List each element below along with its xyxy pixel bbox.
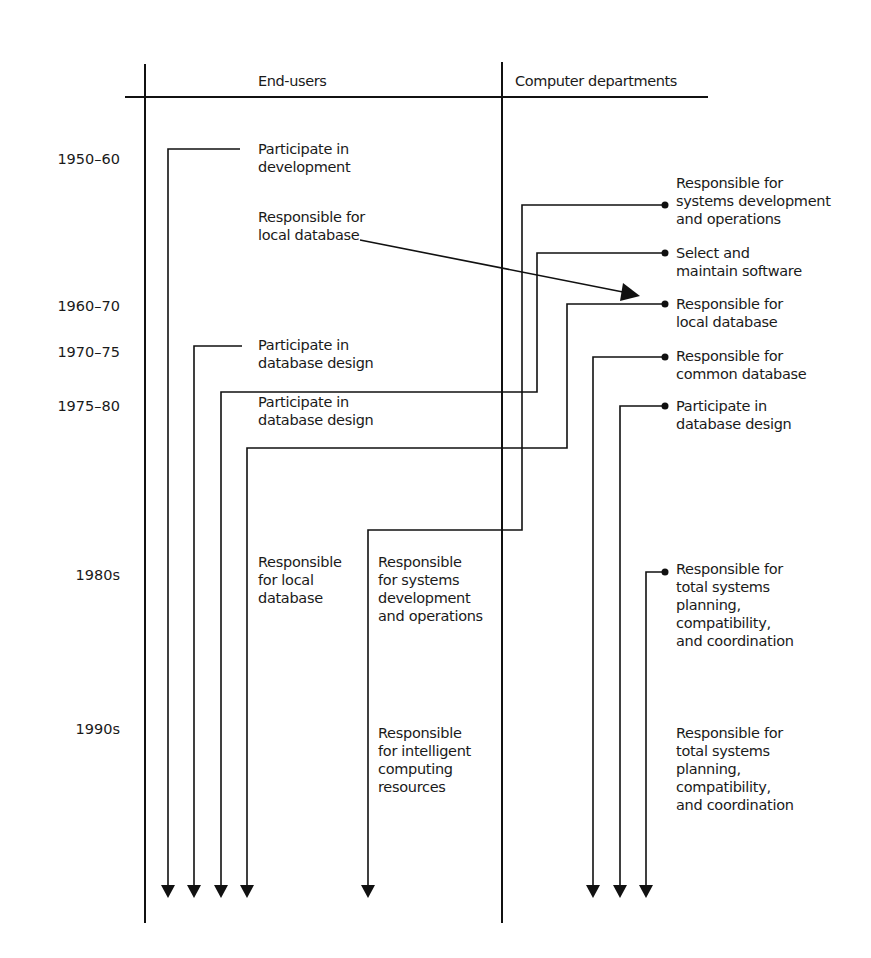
computer-dept-role-label: Select and maintain software [676,244,802,280]
arrowhead-down-icon [613,885,627,898]
computer-dept-role-label: Responsible for common database [676,347,807,383]
end-user-role-label: Participate in development [258,140,350,176]
computer-dept-role-label: Responsible for local database [676,295,783,331]
computer-dept-role-label: Responsible for total systems planning, … [676,560,794,650]
arrowhead-local-db-transfer [620,283,640,301]
end-user-role-label: Responsible for systems development and … [378,553,483,625]
dot-total-systems [662,569,669,576]
connector-lines [0,0,871,958]
era-label: 1970–75 [40,343,120,361]
arrowhead-down-icon [187,885,201,898]
arrowhead-down-icon [240,885,254,898]
computer-dept-role-label: Participate in database design [676,397,791,433]
era-label: 1960–70 [40,297,120,315]
arrowhead-down-icon [586,885,600,898]
connector-cd-db-design [620,406,665,896]
computer-dept-role-label: Responsible for total systems planning, … [676,724,794,814]
era-label: 1980s [40,566,120,584]
arrowhead-down-icon [161,885,175,898]
dot-local-db [662,301,669,308]
end-user-role-label: Responsible for local database [258,553,342,607]
computer-dept-role-label: Responsible for systems development and … [676,174,831,228]
end-user-role-label: Participate in database design [258,393,373,429]
column-header-computer-departments: Computer departments [515,72,677,90]
connector-common-db [593,357,665,896]
arrowhead-down-icon [639,885,653,898]
column-header-end-users: End-users [258,72,326,90]
connector-total-systems [646,572,665,896]
dot-systems-dev [662,202,669,209]
era-label: 1975–80 [40,397,120,415]
era-label: 1950–60 [40,150,120,168]
arrowhead-down-icon [214,885,228,898]
connector-participate-db-design-1970 [194,346,242,896]
end-user-role-label: Participate in database design [258,336,373,372]
connector-local-db-transfer [360,240,628,293]
role-evolution-diagram: End-users Computer departments 1950–60 1… [0,0,871,958]
arrowhead-down-icon [361,885,375,898]
end-user-role-label: Responsible for intelligent computing re… [378,724,471,796]
era-label: 1990s [40,720,120,738]
dot-cd-db-design [662,403,669,410]
end-user-role-label: Responsible for local database [258,208,365,244]
dot-select-software [662,250,669,257]
dot-common-db [662,354,669,361]
connector-participate-development [168,149,240,896]
